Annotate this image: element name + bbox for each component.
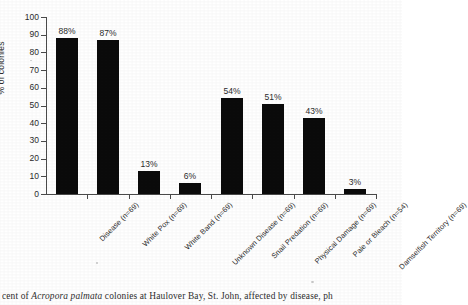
y-axis-tick-label: 100 — [17, 13, 39, 21]
x-axis-tick — [211, 194, 212, 199]
y-axis-tick-label: 20 — [17, 154, 39, 162]
plot-area — [46, 17, 376, 194]
scan-speck — [96, 262, 98, 264]
y-axis-tick-label: 30 — [17, 136, 39, 144]
caption-suffix: colonies at Haulover Bay, St. John, affe… — [102, 291, 333, 301]
y-axis-tick-label: 60 — [17, 83, 39, 91]
caption-prefix: cent of — [2, 291, 31, 301]
bar-value-label: 87% — [88, 29, 128, 38]
x-axis-tick — [252, 194, 253, 199]
bar-value-label: 43% — [294, 107, 334, 116]
bar-value-label: 13% — [129, 160, 169, 169]
bar-value-label: 88% — [47, 27, 87, 36]
x-axis-tick — [294, 194, 295, 199]
x-axis-tick — [129, 194, 130, 199]
bar — [179, 183, 201, 194]
scan-speck — [30, 60, 32, 61]
x-axis-category-label: Unknown Disease (n=69) — [231, 201, 297, 267]
bar-value-label: 54% — [212, 87, 252, 96]
y-axis-tick-label: 40 — [17, 119, 39, 127]
y-axis-tick-label: 90 — [17, 30, 39, 38]
y-axis-tick-label: 10 — [17, 172, 39, 180]
x-axis-category-label: Damselfish Territory (n=69) — [398, 201, 468, 271]
x-axis-tick — [376, 194, 377, 199]
bar — [138, 171, 160, 194]
x-axis-tick — [87, 194, 88, 199]
x-axis-tick — [335, 194, 336, 199]
y-axis-title: % of colonies — [0, 8, 6, 128]
x-axis-category-label: White Band (n=69) — [184, 201, 235, 252]
bar — [97, 40, 119, 194]
x-axis-tick — [170, 194, 171, 199]
bar — [221, 98, 243, 194]
bar-value-label: 6% — [170, 172, 210, 181]
bar — [56, 38, 78, 194]
caption-species-name: Acropora palmata — [31, 291, 102, 301]
bar — [303, 118, 325, 194]
x-axis-category-label: Disease (n=69) — [98, 201, 140, 243]
bar-value-label: 3% — [335, 178, 375, 187]
figure-caption: cent of Acropora palmata colonies at Hau… — [2, 291, 402, 301]
y-axis-tick — [41, 194, 46, 195]
bar — [262, 104, 284, 194]
y-axis-tick-label: 70 — [17, 66, 39, 74]
y-axis-tick-label: 0 — [17, 190, 39, 198]
y-axis-tick-label: 80 — [17, 48, 39, 56]
x-axis-category-label: White Pox (n=69) — [141, 201, 188, 248]
scan-speck — [311, 281, 314, 283]
y-axis-tick-label: 50 — [17, 101, 39, 109]
bar-value-label: 51% — [253, 93, 293, 102]
bar — [344, 189, 366, 194]
